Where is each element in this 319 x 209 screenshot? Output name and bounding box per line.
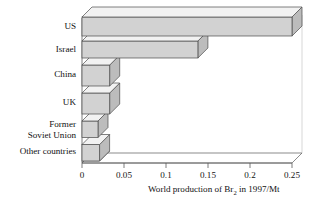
tick-label-group: 0 0.05 0.1 0.15 0.2 0.25	[0, 0, 319, 209]
tick-label-0_2: 0.2	[244, 170, 255, 180]
axis-caption-prefix: World production of Br	[148, 184, 233, 194]
axis-caption-suffix: in 1997/Mt	[237, 184, 280, 194]
axis-caption: World production of Br2 in 1997/Mt	[148, 184, 280, 195]
tick-label-0: 0	[80, 170, 85, 180]
tick-label-0_05: 0.05	[116, 170, 132, 180]
tick-label-0_25: 0.25	[284, 170, 300, 180]
tick-label-0_15: 0.15	[200, 170, 216, 180]
bar-chart: US Israel China UK Former Soviet Union O…	[0, 0, 319, 209]
tick-label-0_1: 0.1	[160, 170, 171, 180]
